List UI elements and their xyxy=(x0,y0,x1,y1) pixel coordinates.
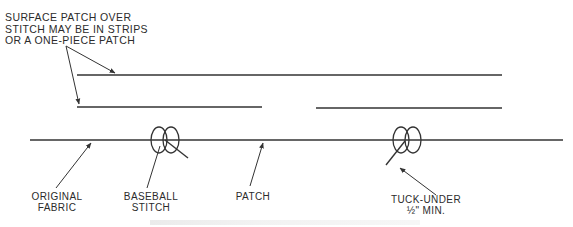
baseball-stitch-leader xyxy=(147,146,160,188)
tuck-under-label: TUCK-UNDER ½" MIN. xyxy=(388,194,464,216)
cropped-figure-caption xyxy=(150,220,420,225)
patch-diagram: SURFACE PATCH OVER STITCH MAY BE IN STRI… xyxy=(0,0,573,227)
tuck-under-leader xyxy=(400,168,436,195)
baseball-stitch-label: BASEBALL STITCH xyxy=(119,191,183,213)
patch-label: PATCH xyxy=(228,191,278,202)
note-leader-top xyxy=(66,46,115,73)
surface-patch-note: SURFACE PATCH OVER STITCH MAY BE IN STRI… xyxy=(5,12,148,47)
baseball-stitch-left-icon xyxy=(151,127,188,158)
note-line-3: OR A ONE-PIECE PATCH xyxy=(5,35,148,47)
note-line-1: SURFACE PATCH OVER xyxy=(5,12,148,24)
original-fabric-leader xyxy=(56,143,91,188)
baseball-stitch-right-icon xyxy=(386,127,421,165)
original-fabric-label: ORIGINAL FABRIC xyxy=(27,191,87,213)
patch-leader xyxy=(250,143,263,186)
